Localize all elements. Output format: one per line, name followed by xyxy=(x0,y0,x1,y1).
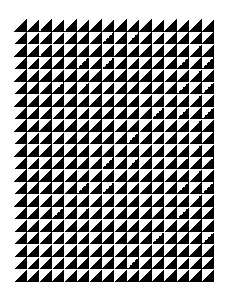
triangle-cell xyxy=(27,257,40,270)
triangle-cell xyxy=(39,207,52,220)
triangle-cell xyxy=(114,82,127,95)
triangle-cell xyxy=(27,57,40,70)
triangle-cell xyxy=(202,219,215,232)
triangle-cell xyxy=(102,32,115,45)
triangle-cell xyxy=(152,57,165,70)
triangle-cell xyxy=(177,194,190,207)
triangle-cell xyxy=(89,244,102,257)
triangle-cell xyxy=(39,169,52,182)
triangle-cell xyxy=(89,169,102,182)
triangle-cell xyxy=(64,107,77,120)
triangle-cell xyxy=(114,144,127,157)
triangle-cell xyxy=(52,19,65,32)
triangle-cell xyxy=(14,44,27,57)
triangle-cell xyxy=(27,44,40,57)
triangle-cell xyxy=(189,57,202,70)
triangle-cell xyxy=(164,257,177,270)
triangle-cell xyxy=(52,182,65,195)
triangle-cell xyxy=(127,107,140,120)
triangle-cell xyxy=(52,82,65,95)
triangle-cell xyxy=(164,182,177,195)
triangle-cell xyxy=(102,82,115,95)
triangle-cell xyxy=(64,144,77,157)
triangle-cell xyxy=(14,32,27,45)
triangle-cell xyxy=(152,107,165,120)
triangle-cell xyxy=(39,57,52,70)
triangle-cell xyxy=(189,107,202,120)
triangle-cell xyxy=(202,94,215,107)
triangle-cell xyxy=(164,244,177,257)
triangle-cell xyxy=(177,144,190,157)
triangle-cell xyxy=(52,257,65,270)
triangle-cell xyxy=(39,194,52,207)
triangle-cell xyxy=(52,144,65,157)
triangle-cell xyxy=(39,32,52,45)
triangle-cell xyxy=(202,169,215,182)
triangle-cell xyxy=(39,144,52,157)
triangle-cell xyxy=(152,119,165,132)
triangle-cell xyxy=(14,119,27,132)
triangle-cell xyxy=(189,207,202,220)
triangle-cell xyxy=(152,32,165,45)
triangle-cell xyxy=(52,219,65,232)
triangle-cell xyxy=(164,169,177,182)
triangle-cell xyxy=(114,269,127,282)
triangle-cell xyxy=(139,144,152,157)
triangle-cell xyxy=(77,57,90,70)
triangle-cell xyxy=(77,182,90,195)
triangle-cell xyxy=(114,157,127,170)
triangle-cell xyxy=(64,19,77,32)
triangle-cell xyxy=(139,32,152,45)
triangle-cell xyxy=(77,144,90,157)
triangle-cell xyxy=(64,32,77,45)
triangle-cell xyxy=(114,244,127,257)
triangle-cell xyxy=(189,132,202,145)
triangle-cell xyxy=(27,107,40,120)
triangle-cell xyxy=(127,19,140,32)
triangle-cell xyxy=(177,119,190,132)
triangle-cell xyxy=(77,207,90,220)
triangle-cell xyxy=(177,82,190,95)
triangle-cell xyxy=(127,157,140,170)
triangle-cell xyxy=(14,194,27,207)
triangle-cell xyxy=(52,119,65,132)
triangle-cell xyxy=(152,232,165,245)
triangle-cell xyxy=(177,269,190,282)
triangle-cell xyxy=(64,232,77,245)
triangle-cell xyxy=(77,232,90,245)
triangle-cell xyxy=(164,132,177,145)
triangle-cell xyxy=(64,94,77,107)
triangle-cell xyxy=(64,44,77,57)
triangle-cell xyxy=(164,157,177,170)
triangle-cell xyxy=(14,169,27,182)
triangle-cell xyxy=(139,132,152,145)
triangle-cell xyxy=(127,132,140,145)
triangle-cell xyxy=(189,257,202,270)
triangle-cell xyxy=(139,119,152,132)
triangle-cell xyxy=(102,219,115,232)
triangle-cell xyxy=(102,107,115,120)
triangle-cell xyxy=(64,244,77,257)
triangle-cell xyxy=(27,169,40,182)
triangle-cell xyxy=(77,19,90,32)
triangle-cell xyxy=(114,69,127,82)
triangle-cell xyxy=(114,194,127,207)
triangle-cell xyxy=(77,169,90,182)
triangle-cell xyxy=(152,132,165,145)
triangle-cell xyxy=(164,57,177,70)
triangle-cell xyxy=(152,94,165,107)
triangle-cell xyxy=(202,82,215,95)
triangle-cell xyxy=(152,219,165,232)
triangle-cell xyxy=(189,94,202,107)
triangle-cell xyxy=(202,19,215,32)
triangle-cell xyxy=(39,107,52,120)
triangle-cell xyxy=(77,269,90,282)
triangle-cell xyxy=(189,219,202,232)
triangle-cell xyxy=(102,44,115,57)
triangle-cell xyxy=(127,82,140,95)
triangle-cell xyxy=(64,257,77,270)
triangle-cell xyxy=(89,132,102,145)
triangle-cell xyxy=(64,169,77,182)
triangle-cell xyxy=(64,119,77,132)
triangle-cell xyxy=(189,232,202,245)
